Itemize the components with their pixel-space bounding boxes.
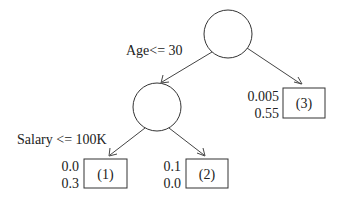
leaf-label-2: (2) xyxy=(199,167,216,183)
leaf-value-1-bottom: 0.3 xyxy=(62,176,80,191)
leaf-value-2-top: 0.1 xyxy=(164,159,182,174)
leaf-node-3: (3) 0.005 0.55 xyxy=(248,88,326,121)
edge-left-to-leaf2 xyxy=(169,128,204,155)
leaf-value-1-top: 0.0 xyxy=(62,159,80,174)
left-split-node xyxy=(133,83,181,131)
leaf-value-2-bottom: 0.0 xyxy=(164,176,182,191)
edge-label-salary: Salary <= 100K xyxy=(17,132,107,147)
leaf-label-3: (3) xyxy=(296,96,313,112)
edge-root-to-leaf3 xyxy=(247,48,301,84)
leaf-node-2: (2) 0.1 0.0 xyxy=(164,159,229,191)
leaf-label-1: (1) xyxy=(97,167,114,183)
edge-left-to-leaf1 xyxy=(110,128,145,155)
edge-label-age: Age<= 30 xyxy=(126,43,183,58)
leaf-value-3-top: 0.005 xyxy=(248,89,280,104)
leaf-value-3-bottom: 0.55 xyxy=(255,106,280,121)
root-node xyxy=(204,10,252,58)
leaf-node-1: (1) 0.0 0.3 xyxy=(62,159,128,191)
decision-tree-diagram: Age<= 30 Salary <= 100K (3) 0.005 0.55 (… xyxy=(0,0,341,201)
